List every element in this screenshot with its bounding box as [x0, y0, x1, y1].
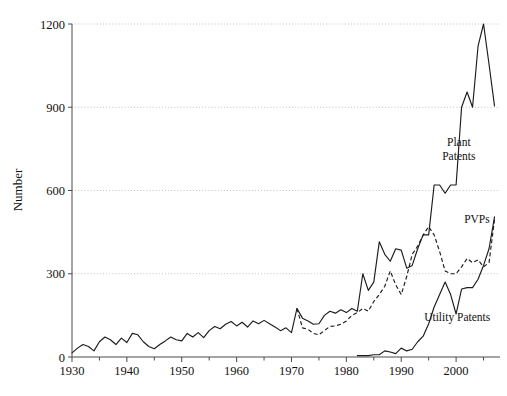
x-tick-label-1940: 1940 [114, 364, 139, 378]
x-tick-label-1950: 1950 [169, 364, 194, 378]
y-axis-title: Number [10, 168, 25, 211]
y-tick-label-300: 300 [46, 267, 65, 281]
annotation-line: PVPs [464, 213, 490, 225]
y-axis-ticks: 03006009001200 [40, 18, 72, 365]
x-tick-label-1990: 1990 [389, 364, 414, 378]
y-tick-label-0: 0 [59, 351, 65, 365]
data-series-group [72, 24, 495, 356]
x-tick-label-1980: 1980 [334, 364, 359, 378]
gridlines [72, 24, 500, 274]
x-tick-label-2000: 2000 [444, 364, 469, 378]
line-chart: 03006009001200 1930194019501960197019801… [0, 0, 507, 396]
chart-container: 03006009001200 1930194019501960197019801… [0, 0, 507, 396]
series-line-utility-patents [357, 217, 494, 356]
annotation-utility-patents: Utility Patents [424, 311, 491, 324]
x-tick-label-1970: 1970 [279, 364, 304, 378]
y-tick-label-1200: 1200 [40, 18, 65, 32]
annotation-plant-patents: PlantPatents [442, 136, 476, 162]
x-tick-label-1930: 1930 [60, 364, 85, 378]
y-tick-label-600: 600 [46, 184, 65, 198]
annotation-line: Patents [442, 150, 476, 162]
x-tick-label-1960: 1960 [224, 364, 249, 378]
series-line-plant-patents [72, 24, 495, 353]
annotation-line: Utility Patents [424, 311, 491, 324]
x-axis-ticks: 19301940195019601970198019902000 [60, 357, 484, 378]
annotation-line: Plant [447, 136, 471, 148]
y-tick-label-900: 900 [46, 101, 65, 115]
annotation-pvps: PVPs [464, 213, 490, 225]
